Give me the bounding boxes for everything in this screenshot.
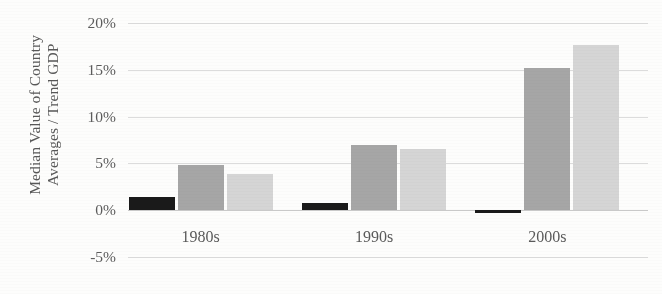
bar-chart: Median Value of Country Averages / Trend… (0, 0, 662, 294)
x-axis-label-1990s: 1990s (355, 228, 393, 246)
bar-2000s-series-2 (524, 68, 570, 210)
y-axis-title-line-1: Median Value of Country (26, 35, 43, 195)
bars-layer (128, 0, 648, 294)
bar-1980s-series-3 (227, 174, 273, 211)
bar-1980s-series-2 (178, 165, 224, 210)
bar-1980s-series-1 (129, 197, 175, 210)
y-axis-tick-labels: 20%15%10%5%0%-5% (44, 0, 122, 294)
x-axis-label-2000s: 2000s (528, 228, 566, 246)
bar-1990s-series-3 (400, 149, 446, 210)
y-axis-tick-neg5pct: -5% (90, 248, 116, 266)
bar-2000s-series-3 (573, 45, 619, 210)
plot-area: 1980s1990s2000s (128, 0, 648, 294)
bar-2000s-series-1 (475, 210, 521, 213)
y-axis-tick-0pct: 0% (95, 201, 116, 219)
y-axis-tick-5pct: 5% (95, 154, 116, 172)
y-axis-tick-10pct: 10% (88, 108, 116, 126)
bar-1990s-series-1 (302, 203, 348, 210)
x-axis-label-1980s: 1980s (182, 228, 220, 246)
y-axis-tick-20pct: 20% (88, 14, 116, 32)
bar-1990s-series-2 (351, 145, 397, 211)
y-axis-tick-15pct: 15% (88, 61, 116, 79)
